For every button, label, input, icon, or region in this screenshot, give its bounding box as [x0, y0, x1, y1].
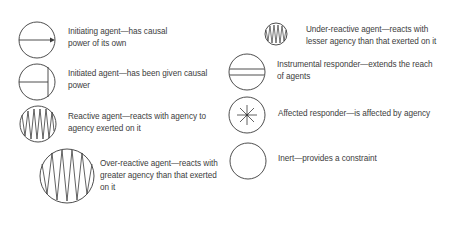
reactive-agent-label: Reactive agent—reacts with agency to age…: [68, 111, 206, 135]
instrumental-responder-label: Instrumental responder—extends the reach…: [277, 59, 432, 83]
initiated-agent-label: Initiated agent—has been given causal po…: [68, 68, 207, 92]
small-circle-zigzag-icon: [264, 22, 288, 46]
circle-asterisk-icon: [228, 96, 266, 134]
inert-label: Inert—provides a constraint: [278, 153, 377, 165]
under-reactive-agent-label: Under-reactive agent—reacts with lesser …: [306, 24, 436, 48]
circle-double-line-icon: [228, 53, 266, 91]
circle-zigzag-icon: [19, 105, 57, 143]
affected-responder-label: Affected responder—is affected by agency: [278, 108, 430, 120]
over-reactive-agent-label: Over-reactive agent—reacts with greater …: [100, 158, 218, 194]
empty-circle-icon: [229, 142, 267, 180]
initiating-agent-label: Initiating agent—has causal power of its…: [68, 26, 167, 50]
circle-t-icon: [18, 63, 56, 101]
circle-arrow-icon: [18, 21, 56, 59]
large-circle-zigzag-icon: [39, 148, 95, 204]
